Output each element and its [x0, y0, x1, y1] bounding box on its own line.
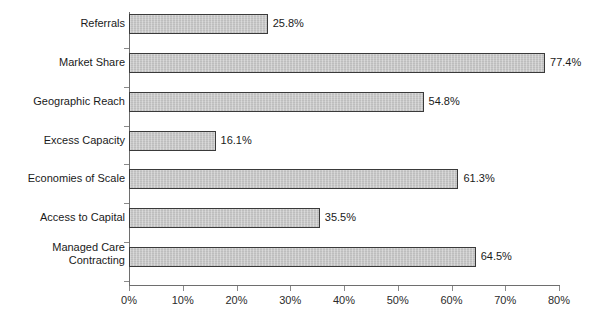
x-axis-tick — [398, 286, 399, 291]
category-label: Referrals — [0, 17, 125, 30]
bar-texture — [130, 209, 319, 227]
bar-value-label: 54.8% — [429, 95, 460, 107]
bar-value-label: 16.1% — [221, 134, 252, 146]
category-label: Market Share — [0, 56, 125, 69]
bar-row: Referrals25.8% — [0, 14, 592, 34]
bar — [129, 208, 320, 228]
x-axis-tick — [344, 286, 345, 291]
x-axis-tick-label: 60% — [440, 294, 462, 306]
bar-chart: 0%10%20%30%40%50%60%70%80% Referrals25.8… — [0, 0, 592, 319]
x-axis-tick-label: 10% — [172, 294, 194, 306]
x-axis-tick — [183, 286, 184, 291]
y-axis-tick — [124, 281, 129, 282]
x-axis-tick — [129, 286, 130, 291]
y-axis-tick — [124, 164, 129, 165]
x-axis-tick-label: 20% — [225, 294, 247, 306]
bar-texture — [130, 248, 475, 266]
bar-value-label: 25.8% — [273, 17, 304, 29]
x-axis-tick — [290, 286, 291, 291]
bar-texture — [130, 54, 544, 72]
x-axis-tick — [237, 286, 238, 291]
y-axis-tick — [124, 126, 129, 127]
y-axis-tick — [124, 203, 129, 204]
category-label: Economies of Scale — [0, 172, 125, 185]
bar-row: Excess Capacity16.1% — [0, 131, 592, 151]
bar-row: Access to Capital35.5% — [0, 208, 592, 228]
bar-row: Market Share77.4% — [0, 53, 592, 73]
bar — [129, 247, 476, 267]
bar-texture — [130, 93, 423, 111]
bar-row: Economies of Scale61.3% — [0, 169, 592, 189]
category-label: Excess Capacity — [0, 134, 125, 147]
category-label: Access to Capital — [0, 211, 125, 224]
bar-value-label: 61.3% — [463, 172, 494, 184]
bar-texture — [130, 170, 457, 188]
bar — [129, 92, 424, 112]
bar-value-label: 77.4% — [550, 56, 581, 68]
x-axis-tick — [559, 286, 560, 291]
bar — [129, 53, 545, 73]
bar — [129, 169, 458, 189]
x-axis-tick-label: 0% — [121, 294, 137, 306]
bar-value-label: 64.5% — [481, 250, 512, 262]
bar-value-label: 35.5% — [325, 211, 356, 223]
x-axis-tick-label: 70% — [494, 294, 516, 306]
category-label: Managed Care Contracting — [0, 241, 125, 267]
bar-texture — [130, 15, 267, 33]
y-axis-tick — [124, 87, 129, 88]
bar-row: Managed Care Contracting64.5% — [0, 247, 592, 267]
x-axis-tick — [505, 286, 506, 291]
x-axis-tick-label: 50% — [387, 294, 409, 306]
bar — [129, 14, 268, 34]
x-axis-tick-label: 40% — [333, 294, 355, 306]
x-axis-tick — [452, 286, 453, 291]
y-axis-tick — [124, 48, 129, 49]
bar — [129, 131, 216, 151]
bar-texture — [130, 132, 215, 150]
category-label: Geographic Reach — [0, 95, 125, 108]
x-axis-tick-label: 30% — [279, 294, 301, 306]
x-axis-tick-label: 80% — [548, 294, 570, 306]
bar-row: Geographic Reach54.8% — [0, 92, 592, 112]
